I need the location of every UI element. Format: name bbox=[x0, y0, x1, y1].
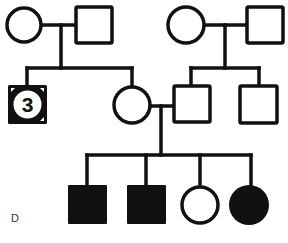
count-label: 3 bbox=[22, 93, 34, 116]
male-affected-iii1 bbox=[68, 185, 107, 224]
female-unaffected-i3 bbox=[168, 7, 204, 43]
panel-label: D bbox=[11, 212, 19, 224]
male-affected-iii2 bbox=[127, 185, 166, 224]
female-affected-iii4 bbox=[229, 185, 269, 225]
female-unaffected-ii2 bbox=[114, 87, 150, 123]
male-unaffected-ii3 bbox=[174, 86, 210, 122]
pedigree-diagram: 3 D bbox=[0, 0, 288, 243]
male-unaffected-ii4 bbox=[240, 86, 277, 123]
male-unaffected-i4 bbox=[247, 7, 283, 43]
female-unaffected-i1 bbox=[7, 8, 41, 42]
male-unaffected-i2 bbox=[76, 7, 112, 43]
male-affected-group-ii1: 3 bbox=[8, 85, 47, 124]
female-unaffected-iii3 bbox=[182, 187, 218, 223]
